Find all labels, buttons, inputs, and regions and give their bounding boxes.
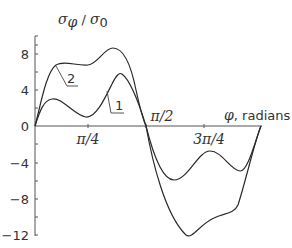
y-tick-label: 8 — [21, 47, 29, 62]
series-1-curve — [35, 73, 261, 180]
x-tick-label: π/4 — [76, 131, 100, 147]
y-tick-label: 0 — [21, 119, 29, 134]
series-1-label: 1 — [115, 98, 123, 113]
x-axis-title: φ, radians — [224, 107, 290, 123]
series-2-label: 2 — [67, 71, 75, 86]
y-axis-title: σφ / σ0 — [58, 11, 108, 30]
y-tick-label: 4 — [21, 83, 29, 98]
y-tick-label: −4 — [10, 156, 29, 171]
y-tick-label: −12 — [2, 228, 29, 243]
x-tick-label: π/2 — [150, 108, 174, 124]
y-tick-label: −8 — [10, 192, 29, 207]
x-tick-label: 3π/4 — [193, 131, 225, 147]
stress-chart: σφ / σ0 8 4 0 −4 −8 −12 π/4 π/2 3π/4 φ, … — [0, 0, 292, 248]
